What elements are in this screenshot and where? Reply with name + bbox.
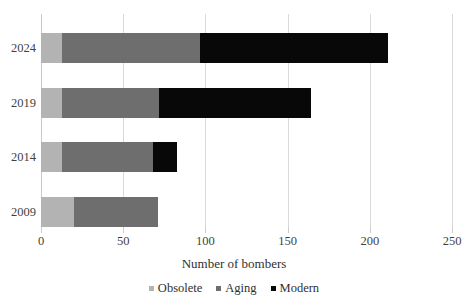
- x-axis-tick-label: 200: [360, 234, 379, 249]
- bar-segment-aging[interactable]: [62, 33, 200, 63]
- x-axis-tick: [205, 227, 206, 233]
- gridline: [452, 14, 453, 232]
- bar-segment-modern[interactable]: [153, 142, 178, 172]
- legend-item[interactable]: Obsolete: [149, 281, 202, 296]
- x-axis-tick-label: 0: [38, 234, 44, 249]
- x-axis-tick-label: 50: [117, 234, 130, 249]
- legend-swatch-icon: [216, 286, 221, 291]
- stacked-bar-chart: 2024201920142009 050100150200250 Number …: [0, 0, 468, 307]
- bar-segment-aging[interactable]: [62, 88, 159, 118]
- bar-segment-modern[interactable]: [159, 88, 310, 118]
- x-axis-tick: [288, 227, 289, 233]
- bar-row[interactable]: [41, 197, 158, 227]
- x-axis-tick: [370, 227, 371, 233]
- y-axis-tick-labels: 2024201920142009: [0, 14, 36, 232]
- y-axis-tick-label: 2024: [0, 33, 36, 63]
- bar-segment-obsolete[interactable]: [41, 88, 62, 118]
- x-axis-tick: [452, 227, 453, 233]
- x-axis-tick-label: 100: [196, 234, 215, 249]
- legend-label: Aging: [225, 281, 256, 296]
- bar-row[interactable]: [41, 88, 311, 118]
- legend-item[interactable]: Aging: [216, 281, 256, 296]
- chart-legend: ObsoleteAgingModern: [0, 281, 468, 296]
- y-axis-tick-label: 2009: [0, 197, 36, 227]
- legend-swatch-icon: [271, 286, 276, 291]
- x-axis-tick: [41, 227, 42, 233]
- bar-segment-obsolete[interactable]: [41, 197, 74, 227]
- bar-segment-obsolete[interactable]: [41, 33, 62, 63]
- x-axis-tick-label: 250: [443, 234, 462, 249]
- x-axis-tick-labels: 050100150200250: [41, 234, 452, 252]
- legend-label: Modern: [280, 281, 320, 296]
- y-axis-tick-label: 2014: [0, 142, 36, 172]
- bar-segment-aging[interactable]: [74, 197, 158, 227]
- plot-area: [41, 14, 452, 232]
- y-axis-tick-label: 2019: [0, 88, 36, 118]
- legend-swatch-icon: [149, 286, 154, 291]
- x-axis-tick: [123, 227, 124, 233]
- x-axis-tick-label: 150: [278, 234, 297, 249]
- x-axis-title: Number of bombers: [0, 256, 468, 272]
- bar-segment-obsolete[interactable]: [41, 142, 62, 172]
- legend-label: Obsolete: [158, 281, 202, 296]
- legend-item[interactable]: Modern: [271, 281, 320, 296]
- bar-row[interactable]: [41, 142, 177, 172]
- bar-segment-modern[interactable]: [200, 33, 387, 63]
- bar-segment-aging[interactable]: [62, 142, 152, 172]
- bar-row[interactable]: [41, 33, 388, 63]
